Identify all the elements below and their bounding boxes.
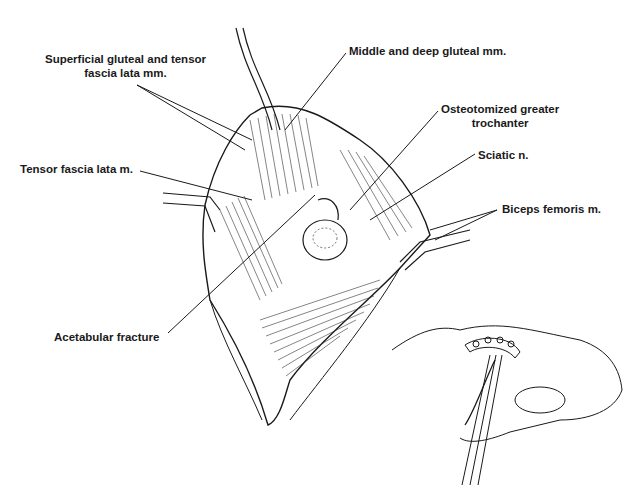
inset-pelvis — [392, 326, 622, 485]
incision-outline — [203, 106, 430, 425]
leader-lines — [137, 53, 497, 333]
label-acetabular-fracture: Acetabular fracture — [54, 330, 159, 344]
retractors — [163, 28, 470, 270]
label-sciatic-nerve: Sciatic n. — [478, 148, 529, 162]
femoral-head — [303, 199, 347, 260]
label-biceps-femoris: Biceps femoris m. — [502, 202, 601, 216]
label-osteotomized-trochanter: Osteotomized greater trochanter — [441, 102, 559, 130]
muscle-hatching — [220, 114, 412, 376]
label-superficial-gluteal: Superficial gluteal and tensor fascia la… — [45, 52, 206, 80]
label-tensor-fascia-lata: Tensor fascia lata m. — [20, 162, 133, 176]
label-middle-deep-gluteal: Middle and deep gluteal mm. — [349, 44, 506, 58]
